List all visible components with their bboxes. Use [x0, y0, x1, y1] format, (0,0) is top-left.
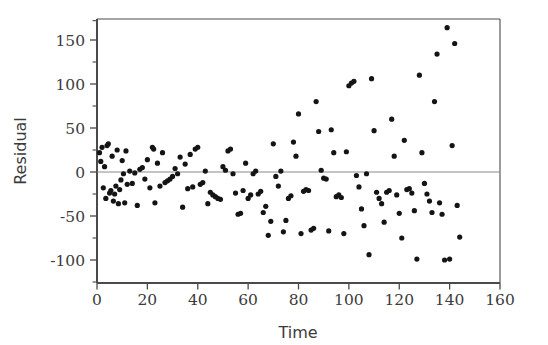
- scatter-point: [379, 201, 384, 206]
- scatter-point: [233, 191, 238, 196]
- x-tick-label: 120: [384, 291, 414, 309]
- scatter-point: [437, 200, 442, 205]
- scatter-point: [258, 189, 263, 194]
- scatter-point: [243, 161, 248, 166]
- x-axis-tick-labels: 020406080100120140160: [92, 291, 515, 309]
- scatter-point: [132, 170, 137, 175]
- scatter-point: [203, 169, 208, 174]
- scatter-point: [374, 190, 379, 195]
- scatter-point: [145, 157, 150, 162]
- scatter-point: [326, 228, 331, 233]
- scatter-point: [116, 201, 121, 206]
- scatter-point: [351, 79, 356, 84]
- scatter-point: [118, 177, 123, 182]
- scatter-point: [142, 176, 147, 181]
- scatter-point: [371, 128, 376, 133]
- scatter-point: [439, 212, 444, 217]
- scatter-point: [115, 147, 120, 152]
- scatter-point: [341, 231, 346, 236]
- scatter-point: [178, 154, 183, 159]
- scatter-point: [151, 147, 156, 152]
- scatter-point: [324, 176, 329, 181]
- scatter-point: [288, 193, 293, 198]
- scatter-point: [101, 185, 106, 190]
- residual-plot-svg: 020406080100120140160 -100-50050100150 T…: [0, 0, 548, 345]
- scatter-point: [316, 129, 321, 134]
- x-tick-label: 60: [238, 291, 258, 309]
- scatter-point: [377, 196, 382, 201]
- scatter-point: [157, 183, 162, 188]
- y-tick-label: 0: [75, 164, 85, 182]
- scatter-point: [130, 181, 135, 186]
- scatter-point: [369, 76, 374, 81]
- scatter-point: [331, 150, 336, 155]
- scatter-point: [190, 184, 195, 189]
- scatter-point: [238, 211, 243, 216]
- scatter-point: [111, 198, 116, 203]
- scatter-point: [268, 219, 273, 224]
- scatter-point: [117, 187, 122, 192]
- scatter-point: [427, 198, 432, 203]
- scatter-point: [382, 220, 387, 225]
- scatter-point: [450, 143, 455, 148]
- scatter-point: [273, 174, 278, 179]
- scatter-point: [160, 150, 165, 155]
- scatter-point: [261, 210, 266, 215]
- scatter-point: [394, 192, 399, 197]
- residual-scatter-figure: 020406080100120140160 -100-50050100150 T…: [0, 0, 548, 345]
- scatter-point: [399, 235, 404, 240]
- scatter-point: [442, 257, 447, 262]
- scatter-point: [414, 257, 419, 262]
- scatter-point: [455, 203, 460, 208]
- scatter-point: [200, 180, 205, 185]
- scatter-point: [240, 188, 245, 193]
- scatter-point: [412, 208, 417, 213]
- y-tick-label: 150: [55, 32, 85, 50]
- scatter-point: [185, 186, 190, 191]
- scatter-point: [359, 206, 364, 211]
- scatter-point: [205, 201, 210, 206]
- x-tick-label: 20: [138, 291, 158, 309]
- scatter-point: [424, 191, 429, 196]
- scatter-point: [447, 257, 452, 262]
- y-tick-label: 100: [55, 76, 85, 94]
- scatter-point: [445, 25, 450, 30]
- scatter-point: [281, 229, 286, 234]
- scatter-point: [356, 184, 361, 189]
- scatter-point: [98, 159, 103, 164]
- scatter-point: [417, 73, 422, 78]
- scatter-point: [183, 161, 188, 166]
- scatter-point: [296, 111, 301, 116]
- scatter-point: [429, 210, 434, 215]
- scatter-point: [125, 182, 130, 187]
- scatter-point: [457, 235, 462, 240]
- x-tick-label: 0: [92, 291, 102, 309]
- scatter-point: [314, 99, 319, 104]
- scatter-point: [319, 168, 324, 173]
- scatter-point: [293, 154, 298, 159]
- scatter-point: [97, 150, 102, 155]
- scatter-point: [407, 186, 412, 191]
- scatter-point: [155, 161, 160, 166]
- scatter-point: [278, 169, 283, 174]
- scatter-point: [106, 141, 111, 146]
- scatter-point: [392, 154, 397, 159]
- scatter-point: [123, 148, 128, 153]
- scatter-point: [283, 218, 288, 223]
- scatter-point: [402, 138, 407, 143]
- scatter-point: [147, 185, 152, 190]
- scatter-point: [110, 154, 115, 159]
- scatter-point: [195, 145, 200, 150]
- scatter-point: [291, 139, 296, 144]
- scatter-point: [422, 181, 427, 186]
- scatter-point: [339, 195, 344, 200]
- scatter-point: [354, 173, 359, 178]
- scatter-point: [419, 150, 424, 155]
- y-axis-title: Residual: [11, 117, 30, 185]
- scatter-point: [409, 191, 414, 196]
- scatter-point: [180, 205, 185, 210]
- scatter-point: [266, 233, 271, 238]
- x-tick-label: 160: [485, 291, 515, 309]
- scatter-point: [175, 171, 180, 176]
- scatter-point: [253, 169, 258, 174]
